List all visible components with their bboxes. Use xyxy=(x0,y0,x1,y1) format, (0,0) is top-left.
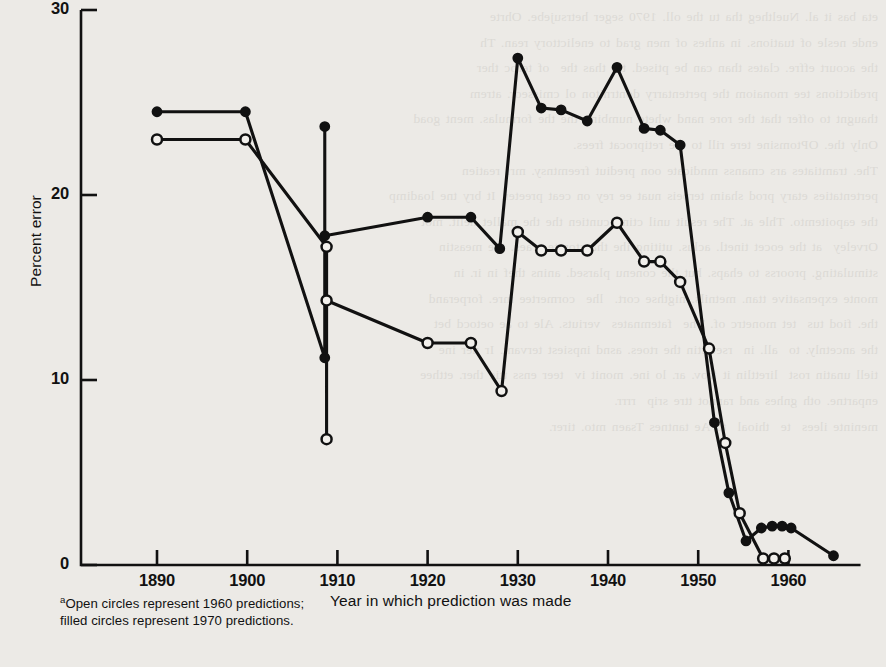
data-point-open-circle xyxy=(240,135,250,145)
data-point-open-circle xyxy=(758,554,768,564)
figure-footnote: aOpen circles represent 1960 predictions… xyxy=(60,595,320,630)
data-point-filled-circle xyxy=(656,126,665,135)
data-point-filled-circle xyxy=(710,418,719,427)
data-point-filled-circle xyxy=(537,103,546,112)
footnote-text: Open circles represent 1960 predictions;… xyxy=(60,596,304,628)
y-tick-label: 30 xyxy=(17,0,69,18)
data-point-open-circle xyxy=(720,438,730,448)
data-point-filled-circle xyxy=(423,213,432,222)
data-point-filled-circle xyxy=(741,536,750,545)
data-point-filled-circle xyxy=(787,523,796,532)
data-point-filled-circle xyxy=(466,213,475,222)
data-point-open-circle xyxy=(322,242,332,252)
data-point-open-circle xyxy=(152,135,162,145)
data-point-open-circle xyxy=(735,508,745,518)
data-point-open-circle xyxy=(780,554,790,564)
data-point-open-circle xyxy=(612,218,622,228)
chart-series-group xyxy=(152,54,838,564)
data-point-open-circle xyxy=(423,338,433,348)
data-point-filled-circle xyxy=(612,63,621,72)
chart-axes xyxy=(81,10,861,565)
data-point-open-circle xyxy=(556,246,566,256)
data-point-open-circle xyxy=(639,257,649,267)
x-tick-label: 1950 xyxy=(663,571,733,590)
data-point-open-circle xyxy=(582,246,592,256)
data-point-filled-circle xyxy=(676,140,685,149)
data-point-filled-circle xyxy=(557,105,566,114)
data-point-open-circle xyxy=(536,246,546,256)
data-point-filled-circle xyxy=(757,523,766,532)
data-point-filled-circle xyxy=(513,54,522,63)
y-tick-label: 20 xyxy=(17,184,69,203)
x-tick-label: 1900 xyxy=(212,571,282,590)
y-tick-label: 0 xyxy=(17,554,69,573)
x-axis-title: Year in which prediction was made xyxy=(330,592,571,610)
x-tick-label: 1890 xyxy=(122,571,192,590)
data-point-open-circle xyxy=(655,257,665,267)
data-point-open-circle xyxy=(704,344,714,354)
data-point-filled-circle xyxy=(639,124,648,133)
x-tick-label: 1960 xyxy=(753,571,823,590)
data-point-filled-circle xyxy=(724,488,733,497)
data-point-filled-circle xyxy=(768,522,777,531)
data-point-open-circle xyxy=(675,277,685,287)
data-point-filled-circle xyxy=(495,244,504,253)
data-point-filled-circle xyxy=(241,107,250,116)
chart-plot-area xyxy=(0,0,886,667)
data-point-filled-circle xyxy=(320,122,329,131)
data-point-open-circle xyxy=(322,434,332,444)
data-point-open-circle xyxy=(513,227,523,237)
x-tick-label: 1930 xyxy=(483,571,553,590)
data-point-filled-circle xyxy=(777,522,786,531)
x-tick-label: 1940 xyxy=(573,571,643,590)
x-tick-label: 1920 xyxy=(393,571,463,590)
data-point-open-circle xyxy=(497,386,507,396)
data-point-open-circle xyxy=(322,295,332,305)
data-point-open-circle xyxy=(769,554,779,564)
chart-series xyxy=(152,135,790,564)
y-tick-label: 10 xyxy=(17,369,69,388)
data-point-filled-circle xyxy=(583,116,592,125)
data-point-filled-circle xyxy=(829,551,838,560)
data-point-open-circle xyxy=(466,338,476,348)
data-point-filled-circle xyxy=(152,107,161,116)
x-tick-label: 1910 xyxy=(302,571,372,590)
figure-percent-error-vs-prediction-year: Percent error Year in which prediction w… xyxy=(0,0,886,667)
